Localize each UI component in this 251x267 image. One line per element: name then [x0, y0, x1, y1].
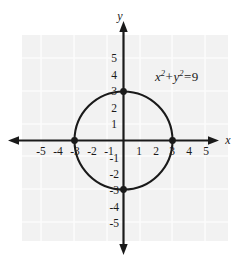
- x-axis-left-arrow: [8, 136, 19, 144]
- point-3-0: [169, 137, 176, 144]
- y-tick-2: 2: [111, 102, 117, 114]
- equation-exp-y: 2: [179, 68, 183, 78]
- y-tick-5: 5: [111, 52, 117, 64]
- x-tick-neg3: -3: [70, 145, 80, 157]
- point-0-3: [120, 88, 127, 95]
- equation-equals: =: [184, 69, 191, 84]
- point-neg3-0: [71, 137, 78, 144]
- y-tick-neg4: -4: [109, 201, 119, 213]
- y-tick-3: 3: [111, 85, 117, 97]
- x-axis-label: x: [224, 133, 231, 147]
- y-tick-neg5: -5: [109, 217, 119, 229]
- equation-exp-x: 2: [161, 68, 165, 78]
- circle-graph-figure: -5 -4 -3 -2 -1 1 2 3 4 5 5 4 3 2 1 -1 -2…: [0, 0, 251, 267]
- equation-plus: +: [166, 69, 173, 84]
- coordinate-plane-svg: -5 -4 -3 -2 -1 1 2 3 4 5 5 4 3 2 1 -1 -2…: [0, 0, 251, 267]
- x-tick-neg5: -5: [36, 145, 46, 157]
- equation-rhs: 9: [192, 69, 199, 84]
- x-tick-5: 5: [203, 145, 209, 157]
- x-tick-3: 3: [169, 145, 175, 157]
- x-tick-4: 4: [186, 145, 192, 157]
- x-tick-1: 1: [136, 145, 142, 157]
- y-tick-4: 4: [111, 69, 117, 81]
- x-tick-neg2: -2: [87, 145, 97, 157]
- equation-annotation: x2+y2=9: [155, 69, 198, 85]
- y-axis-label: y: [116, 9, 123, 23]
- y-tick-neg2: -2: [109, 168, 119, 180]
- y-axis-bottom-arrow: [119, 244, 127, 255]
- point-0-neg3: [120, 186, 127, 193]
- y-tick-neg1: -1: [109, 152, 119, 164]
- x-tick-2: 2: [153, 145, 159, 157]
- y-tick-neg3: -3: [109, 184, 119, 196]
- x-tick-neg4: -4: [53, 145, 63, 157]
- y-tick-1: 1: [111, 118, 117, 130]
- grid-panel: [22, 35, 228, 241]
